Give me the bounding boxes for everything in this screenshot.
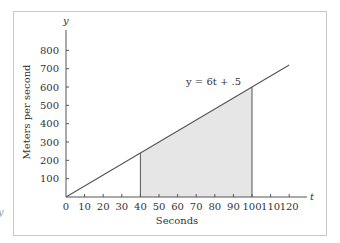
- x-tick-label: 110: [261, 201, 280, 212]
- y-tick-label: 400: [40, 118, 59, 129]
- x-tick-label: 60: [171, 201, 184, 212]
- y-tick-label: 200: [40, 155, 59, 166]
- y-tick-label: 500: [40, 100, 59, 111]
- equation-annotation: y = 6t + .5: [185, 76, 241, 87]
- y-tick-label: 300: [40, 137, 59, 148]
- x-tick-label: 50: [153, 201, 166, 212]
- velocity-chart: 0102030405060708090100110120100200300400…: [0, 0, 340, 243]
- x-tick-label: 20: [97, 201, 110, 212]
- y-tick-label: 100: [40, 173, 59, 184]
- x-tick-label: 0: [63, 201, 69, 212]
- x-tick-label: 70: [190, 201, 203, 212]
- x-axis-title: Seconds: [156, 215, 198, 226]
- x-tick-label: 80: [208, 201, 221, 212]
- y-tick-label: 800: [40, 45, 59, 56]
- x-tick-label: 90: [227, 201, 240, 212]
- y-axis-title: Meters per second: [21, 64, 32, 160]
- y-axis-variable: y: [62, 15, 69, 26]
- y-tick-label: 700: [40, 63, 59, 74]
- x-tick-label: 10: [78, 201, 91, 212]
- y-tick-label: 600: [40, 82, 59, 93]
- x-tick-label: 120: [280, 201, 299, 212]
- x-tick-label: 40: [134, 201, 147, 212]
- x-tick-label: 100: [242, 201, 261, 212]
- x-tick-label: 30: [115, 201, 128, 212]
